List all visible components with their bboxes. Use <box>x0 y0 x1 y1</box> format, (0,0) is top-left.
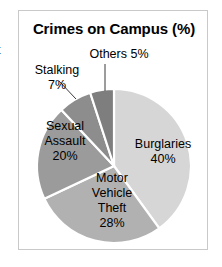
slice-label-motor-line2: Vehicle <box>79 186 145 201</box>
slice-label-sexual-assault-value: 20% <box>31 149 99 164</box>
figure-frame: Crimes on Campus (%) Others 5% Stalking … <box>18 10 208 250</box>
slice-label-motor-line1: Motor <box>79 171 145 186</box>
slice-label-others: Others 5% <box>74 47 164 62</box>
slice-label-stalking-value: 7% <box>20 78 94 93</box>
slice-label-stalking: Stalking 7% <box>20 63 94 93</box>
slice-label-sexual-assault-line1: Sexual <box>31 119 99 134</box>
slice-label-burglaries-value: 40% <box>123 152 203 167</box>
slice-label-motor-line3: Theft <box>79 201 145 216</box>
slice-label-burglaries: Burglaries 40% <box>123 137 203 167</box>
slice-label-motor-value: 28% <box>79 216 145 231</box>
slice-label-stalking-name: Stalking <box>20 63 94 78</box>
slice-label-burglaries-name: Burglaries <box>123 137 203 152</box>
slice-label-motor-vehicle-theft: Motor Vehicle Theft 28% <box>79 171 145 231</box>
slice-label-sexual-assault: Sexual Assault 20% <box>31 119 99 164</box>
clipped-margin-text: t <box>0 42 6 58</box>
slice-label-sexual-assault-line2: Assault <box>31 134 99 149</box>
